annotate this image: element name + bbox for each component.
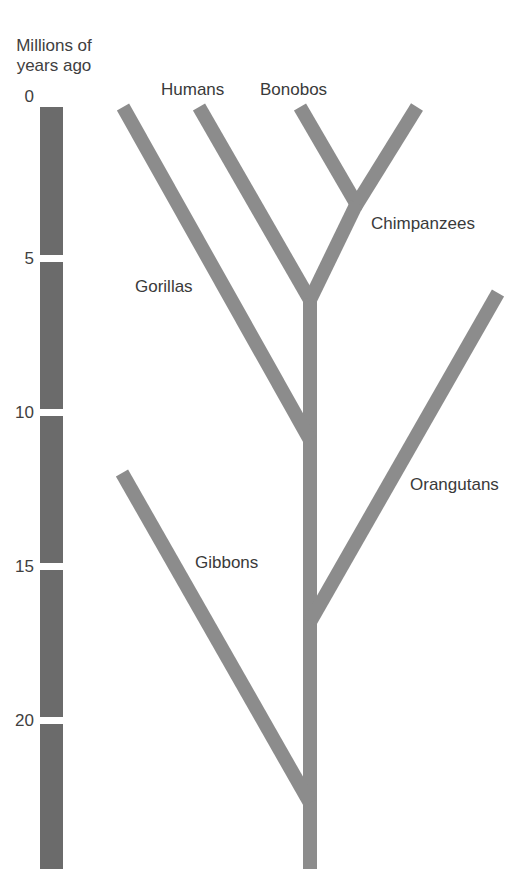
branch-gibbons [122, 473, 310, 803]
branch-chimp-bonobo-stem [310, 203, 357, 300]
label-chimpanzees: Chimpanzees [371, 214, 475, 234]
branch-bonobos [300, 107, 357, 205]
tree-graphic [0, 0, 527, 869]
label-bonobos: Bonobos [260, 80, 327, 100]
branch-gorillas [123, 107, 310, 440]
branch-orangutans [310, 293, 498, 622]
label-orangutans: Orangutans [410, 475, 499, 495]
time-bar-segment-0-5 [40, 107, 63, 255]
time-bar-segment-10-15 [40, 416, 63, 563]
label-gibbons: Gibbons [195, 553, 258, 573]
time-bar-segment-15-20 [40, 570, 63, 717]
branch-chimpanzees [355, 107, 417, 207]
time-bar-segment-5-10 [40, 262, 63, 409]
time-bar [40, 107, 63, 869]
label-humans: Humans [161, 80, 224, 100]
time-bar-segment-20-plus [40, 724, 63, 869]
label-gorillas: Gorillas [135, 277, 193, 297]
